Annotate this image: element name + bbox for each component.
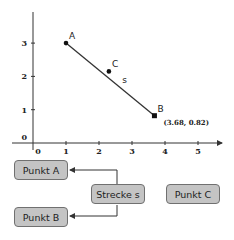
x-tick-label: 1 [63, 146, 69, 156]
y-tick-label: 0 [21, 132, 27, 142]
y-tick-label: 2 [21, 71, 27, 81]
node-punkt-b[interactable]: Punkt B [14, 207, 68, 227]
node-label: Strecke s [96, 189, 140, 200]
x-tick-label: 0 [35, 146, 41, 156]
node-punkt-c[interactable]: Punkt C [166, 184, 220, 204]
point-a[interactable] [64, 41, 69, 46]
node-label: Punkt C [175, 189, 211, 200]
point-label: A [69, 31, 76, 41]
node-strecke-s[interactable]: Strecke s [91, 184, 145, 204]
point-label: C [112, 59, 118, 69]
node-punkt-a[interactable]: Punkt A [14, 160, 68, 180]
point-b[interactable] [152, 113, 157, 118]
coordinate-plot: 012345 0123 s ABC(3.68, 0.82) [0, 0, 234, 160]
x-tick-label: 4 [162, 146, 168, 156]
node-label: Punkt B [23, 212, 59, 223]
segment-s [66, 43, 154, 116]
x-tick-label: 3 [129, 146, 135, 156]
y-tick-label: 1 [21, 105, 27, 115]
segment-label: s [122, 75, 127, 85]
point-c[interactable] [107, 69, 112, 74]
x-tick-label: 5 [195, 146, 201, 156]
point-label: B [157, 104, 163, 114]
point-b-coordinates: (3.68, 0.82) [163, 118, 209, 127]
node-label: Punkt A [23, 165, 59, 176]
edge-strecke-to-punkt-b [70, 205, 117, 216]
x-tick-label: 2 [96, 146, 102, 156]
y-tick-label: 3 [21, 38, 27, 48]
